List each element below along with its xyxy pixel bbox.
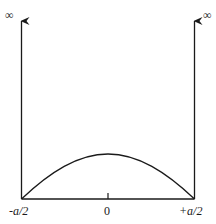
right-infinity-label: ∞ bbox=[203, 8, 212, 22]
left-edge-label: -a/2 bbox=[9, 204, 28, 218]
right-edge-label: +a/2 bbox=[179, 204, 202, 218]
wavefunction-curve bbox=[22, 154, 195, 199]
square-well-diagram: ∞ ∞ -a/2 0 +a/2 bbox=[0, 0, 216, 224]
center-label: 0 bbox=[104, 204, 110, 218]
left-infinity-label: ∞ bbox=[5, 8, 14, 22]
